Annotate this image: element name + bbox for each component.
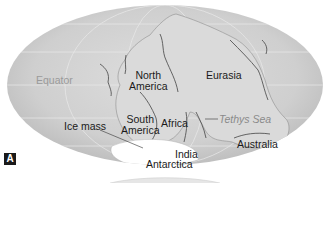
label-ice-mass: Ice mass bbox=[64, 121, 106, 132]
label-africa: Africa bbox=[161, 118, 188, 129]
panel-label-badge: A bbox=[4, 153, 16, 165]
label-tethys-sea: Tethys Sea bbox=[219, 114, 271, 125]
label-south-america: South America bbox=[121, 114, 160, 136]
label-antarctica: Antarctica bbox=[146, 159, 193, 170]
label-equator: Equator bbox=[36, 75, 73, 86]
label-north-america: North America bbox=[129, 70, 168, 92]
label-north-america-line2: America bbox=[129, 81, 168, 92]
label-south-america-line2: America bbox=[121, 125, 160, 136]
label-australia: Australia bbox=[237, 139, 278, 150]
next-panel-edge bbox=[110, 178, 220, 183]
label-eurasia: Eurasia bbox=[206, 70, 242, 81]
